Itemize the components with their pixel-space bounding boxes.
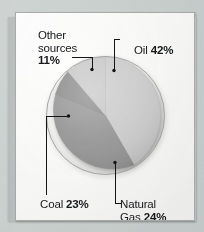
label-natural-gas-name: Gas	[120, 211, 144, 221]
label-natural-gas-line1: Natural	[120, 198, 166, 211]
label-coal-value: 23%	[66, 198, 89, 210]
pie-chart	[44, 54, 167, 177]
label-oil: Oil 42%	[134, 44, 173, 57]
label-natural-gas: Natural Gas 24%	[120, 198, 166, 221]
label-natural-gas-value: 24%	[144, 211, 167, 221]
label-coal-name: Coal	[40, 198, 66, 210]
label-oil-value: 42%	[151, 44, 174, 56]
chart-card: Other sources 11% Oil 42% Coal 23% Natur…	[15, 12, 195, 221]
label-oil-name: Oil	[134, 44, 151, 56]
label-other-sources-value: 11%	[38, 54, 77, 67]
label-coal: Coal 23%	[40, 198, 89, 211]
label-other-sources-line2: sources	[38, 42, 77, 55]
label-other-sources-line1: Other	[38, 29, 77, 42]
label-natural-gas-line2: Gas 24%	[120, 211, 166, 221]
pie-sheen	[46, 56, 164, 174]
figure-root: Other sources 11% Oil 42% Coal 23% Natur…	[0, 0, 204, 232]
pie-svg	[44, 54, 167, 177]
label-other-sources: Other sources 11%	[38, 29, 77, 67]
